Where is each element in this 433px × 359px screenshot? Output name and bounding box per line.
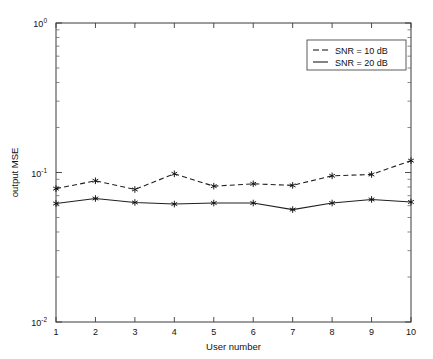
y-tick-exponent: -2 (41, 316, 47, 323)
data-series-group (53, 157, 414, 213)
y-tick-label: 100 (33, 17, 47, 29)
figure-container: 1234567891010010-110-2User numberoutput … (0, 0, 433, 359)
x-tick-label: 5 (211, 327, 216, 337)
x-tick-label: 4 (172, 327, 177, 337)
x-tick-label: 6 (251, 327, 256, 337)
legend-label-2: SNR = 20 dB (335, 58, 388, 68)
data-point-marker (171, 171, 177, 178)
y-tick-label: 10-2 (31, 316, 47, 328)
x-tick-label: 2 (93, 327, 98, 337)
series-line-1 (56, 161, 411, 190)
x-axis-title: User number (206, 341, 261, 352)
series-line-2 (56, 199, 411, 210)
legend-label-1: SNR = 10 dB (335, 46, 388, 56)
data-point-marker (408, 157, 414, 164)
y-tick-label: 10-1 (31, 167, 47, 179)
y-tick-exponent: 0 (43, 17, 47, 24)
legend: SNR = 10 dBSNR = 20 dB (307, 40, 406, 70)
y-axis-title: output MSE (9, 148, 20, 198)
x-tick-label: 10 (406, 327, 416, 337)
x-tick-label: 1 (53, 327, 58, 337)
mse-vs-user-chart: 1234567891010010-110-2User numberoutput … (0, 0, 433, 359)
x-tick-label: 7 (290, 327, 295, 337)
x-tick-label: 8 (330, 327, 335, 337)
x-tick-label: 3 (132, 327, 137, 337)
x-tick-label: 9 (369, 327, 374, 337)
y-tick-exponent: -1 (41, 167, 47, 174)
